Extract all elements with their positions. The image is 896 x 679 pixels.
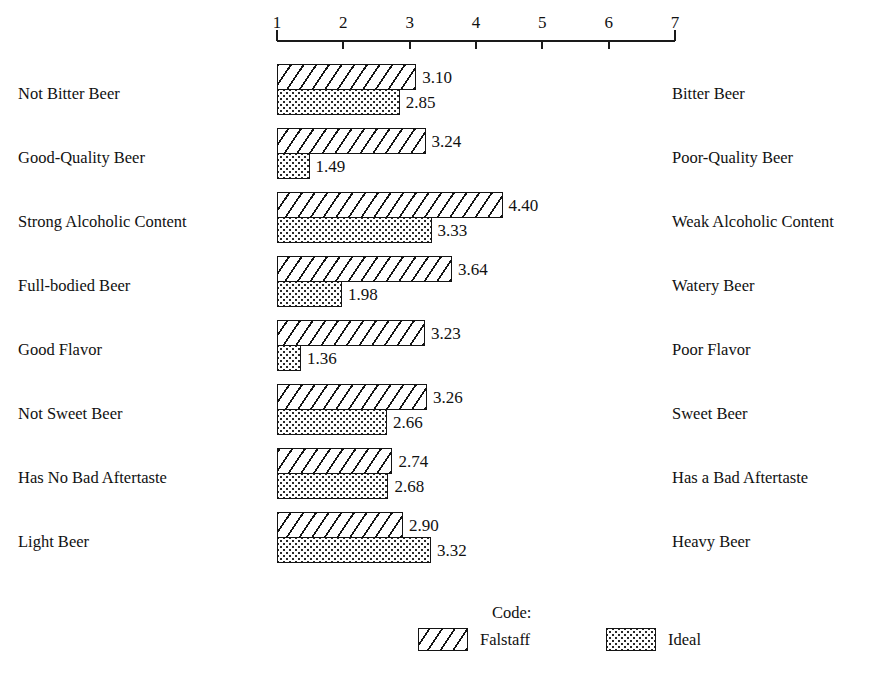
bar-falstaff	[277, 448, 392, 474]
row-label-right: Sweet Beer	[672, 405, 748, 423]
axis-tick-label-5: 5	[530, 14, 554, 31]
row-label-right: Weak Alcoholic Content	[672, 213, 834, 231]
row-label-left: Full-bodied Beer	[18, 277, 130, 295]
axis-tick-mark-6	[608, 40, 610, 49]
legend-title: Code:	[492, 604, 531, 621]
bar-falstaff	[277, 384, 427, 410]
legend-swatch-falstaff	[418, 628, 468, 651]
axis-tick-mark-1	[276, 30, 278, 41]
axis-tick-mark-3	[409, 40, 411, 49]
bar-falstaff	[277, 64, 416, 90]
bar-value-falstaff: 4.40	[509, 197, 539, 214]
bar-value-ideal: 3.33	[438, 222, 468, 239]
axis-tick-mark-7	[674, 30, 676, 41]
bar-falstaff	[277, 256, 452, 282]
axis-tick-mark-5	[541, 40, 543, 49]
chart-row: Not Bitter BeerBitter Beer3.102.85	[0, 62, 896, 126]
row-label-left: Strong Alcoholic Content	[18, 213, 187, 231]
bar-value-falstaff: 2.90	[409, 517, 439, 534]
chart-row: Good-Quality BeerPoor-Quality Beer3.241.…	[0, 126, 896, 190]
row-label-right: Poor-Quality Beer	[672, 149, 793, 167]
axis-tick-label-1: 1	[265, 14, 289, 31]
bar-falstaff	[277, 128, 426, 154]
row-label-right: Has a Bad Aftertaste	[672, 469, 808, 487]
bar-value-falstaff: 3.24	[432, 133, 462, 150]
legend-swatch-ideal	[606, 628, 656, 651]
chart-row: Strong Alcoholic ContentWeak Alcoholic C…	[0, 190, 896, 254]
bar-ideal	[277, 409, 387, 435]
bar-value-ideal: 1.36	[307, 350, 337, 367]
bar-value-ideal: 2.68	[394, 478, 424, 495]
bar-falstaff	[277, 192, 503, 218]
bar-ideal	[277, 217, 432, 243]
chart-row: Not Sweet BeerSweet Beer3.262.66	[0, 382, 896, 446]
bar-value-falstaff: 3.23	[431, 325, 461, 342]
semantic-differential-chart: 1234567 Not Bitter BeerBitter Beer3.102.…	[0, 0, 896, 679]
bar-ideal	[277, 153, 310, 179]
bar-value-ideal: 1.49	[316, 158, 346, 175]
chart-row: Light BeerHeavy Beer2.903.32	[0, 510, 896, 574]
row-label-right: Bitter Beer	[672, 85, 745, 103]
bar-value-ideal: 3.32	[437, 542, 467, 559]
value-axis: 1234567	[0, 0, 896, 52]
axis-tick-mark-4	[475, 40, 477, 49]
bar-ideal	[277, 473, 388, 499]
chart-row: Full-bodied BeerWatery Beer3.641.98	[0, 254, 896, 318]
bar-ideal	[277, 537, 431, 563]
axis-tick-label-2: 2	[331, 14, 355, 31]
bar-value-ideal: 2.85	[406, 94, 436, 111]
row-label-left: Not Sweet Beer	[18, 405, 122, 423]
row-label-left: Good-Quality Beer	[18, 149, 145, 167]
axis-tick-label-3: 3	[398, 14, 422, 31]
bar-value-falstaff: 2.74	[398, 453, 428, 470]
bar-value-ideal: 2.66	[393, 414, 423, 431]
legend-items: FalstaffIdeal	[0, 628, 896, 656]
bar-value-ideal: 1.98	[348, 286, 378, 303]
bar-ideal	[277, 89, 400, 115]
bar-falstaff	[277, 320, 425, 346]
legend-label-ideal: Ideal	[668, 631, 701, 648]
row-label-right: Poor Flavor	[672, 341, 750, 359]
legend-label-falstaff: Falstaff	[480, 631, 530, 648]
row-label-right: Heavy Beer	[672, 533, 750, 551]
axis-tick-label-4: 4	[464, 14, 488, 31]
chart-row: Has No Bad AftertasteHas a Bad Aftertast…	[0, 446, 896, 510]
axis-tick-label-7: 7	[663, 14, 687, 31]
bar-ideal	[277, 345, 301, 371]
axis-tick-mark-2	[342, 40, 344, 49]
bar-value-falstaff: 3.26	[433, 389, 463, 406]
bar-value-falstaff: 3.10	[422, 69, 452, 86]
row-label-left: Light Beer	[18, 533, 89, 551]
row-label-left: Not Bitter Beer	[18, 85, 120, 103]
bar-ideal	[277, 281, 342, 307]
chart-row: Good FlavorPoor Flavor3.231.36	[0, 318, 896, 382]
row-label-right: Watery Beer	[672, 277, 755, 295]
row-label-left: Good Flavor	[18, 341, 102, 359]
bar-value-falstaff: 3.64	[458, 261, 488, 278]
bar-falstaff	[277, 512, 403, 538]
axis-tick-label-6: 6	[597, 14, 621, 31]
row-label-left: Has No Bad Aftertaste	[18, 469, 167, 487]
